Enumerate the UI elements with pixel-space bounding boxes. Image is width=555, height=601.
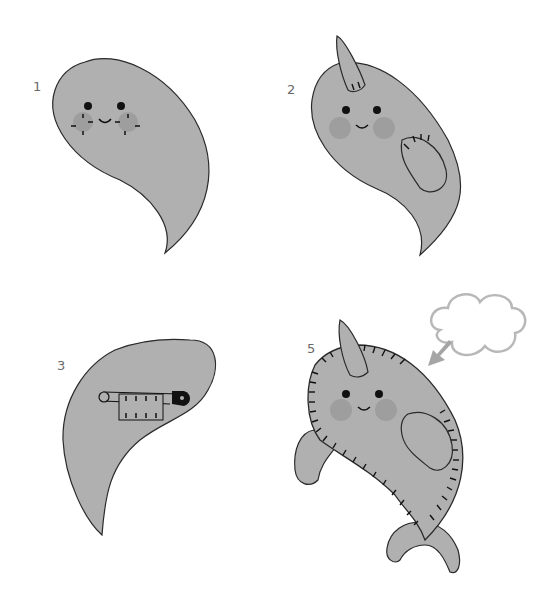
stuffing-cloud-icon <box>428 294 525 366</box>
step-3-body <box>63 339 216 535</box>
step-5-narwhal <box>295 294 526 572</box>
illustration-canvas <box>0 0 555 601</box>
step-2-body <box>312 36 461 255</box>
arrow-icon <box>428 340 452 366</box>
step-1-body <box>53 59 209 253</box>
